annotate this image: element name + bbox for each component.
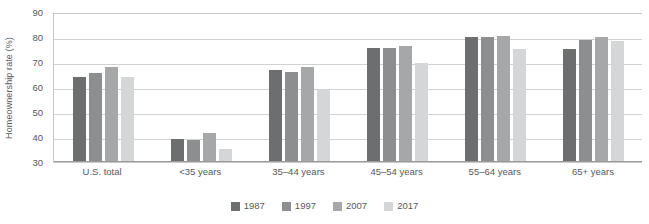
bar — [465, 37, 478, 162]
bar — [187, 140, 200, 162]
bar — [73, 77, 86, 162]
bar — [563, 49, 576, 162]
bar — [481, 37, 494, 162]
bar — [595, 37, 608, 162]
x-tick-label: U.S. total — [83, 166, 122, 177]
x-tick-label: 55–64 years — [469, 166, 521, 177]
bar — [383, 48, 396, 162]
legend-swatch-icon — [282, 202, 291, 211]
bar-groups — [54, 14, 642, 162]
legend-item[interactable]: 2007 — [333, 201, 367, 211]
bar — [301, 67, 314, 163]
x-tick-label: 35–44 years — [272, 166, 324, 177]
y-tick-label: 60 — [32, 83, 43, 93]
bar — [317, 90, 330, 162]
legend-item[interactable]: 1997 — [282, 201, 316, 211]
y-tick-label: 80 — [32, 33, 43, 43]
bar — [89, 73, 102, 162]
bar — [219, 149, 232, 162]
homeownership-rate-bar-chart: Homeownership rate (%) 90807060504030 U.… — [0, 0, 649, 224]
bar — [367, 48, 380, 162]
legend-item[interactable]: 1987 — [231, 201, 265, 211]
y-axis-title-text: Homeownership rate (%) — [4, 37, 14, 139]
x-axis-baseline — [54, 161, 642, 162]
y-tick-label: 90 — [32, 8, 43, 18]
x-tick-label: 65+ years — [572, 166, 614, 177]
bar — [285, 72, 298, 162]
bar-group — [447, 14, 545, 162]
bar — [513, 49, 526, 162]
bar-group — [250, 14, 348, 162]
bar — [415, 63, 428, 162]
x-tick-label: 45–54 years — [370, 166, 422, 177]
plot-area — [53, 13, 642, 163]
x-tick-label: <35 years — [179, 166, 221, 177]
bar — [171, 139, 184, 162]
bar — [399, 46, 412, 162]
y-tick-label: 40 — [32, 133, 43, 143]
bar-group — [349, 14, 447, 162]
legend-label: 1997 — [295, 201, 316, 211]
bar — [611, 41, 624, 162]
legend-label: 1987 — [244, 201, 265, 211]
x-axis-tick-labels: U.S. total<35 years35–44 years45–54 year… — [53, 166, 642, 184]
y-tick-label: 50 — [32, 108, 43, 118]
bar — [121, 77, 134, 162]
legend-label: 2017 — [397, 201, 418, 211]
bar-group — [54, 14, 152, 162]
y-tick-label: 70 — [32, 58, 43, 68]
bar-group — [152, 14, 250, 162]
bar — [579, 40, 592, 162]
bar — [203, 133, 216, 162]
y-axis-title: Homeownership rate (%) — [0, 0, 18, 175]
bar — [497, 36, 510, 162]
y-axis-tick-labels: 90807060504030 — [18, 13, 48, 163]
chart-legend: 1987199720072017 — [0, 198, 649, 214]
y-tick-label: 30 — [32, 158, 43, 168]
bar — [105, 67, 118, 162]
legend-label: 2007 — [346, 201, 367, 211]
bar — [269, 70, 282, 162]
legend-swatch-icon — [333, 202, 342, 211]
bar-group — [545, 14, 643, 162]
legend-swatch-icon — [384, 202, 393, 211]
legend-item[interactable]: 2017 — [384, 201, 418, 211]
legend-swatch-icon — [231, 202, 240, 211]
